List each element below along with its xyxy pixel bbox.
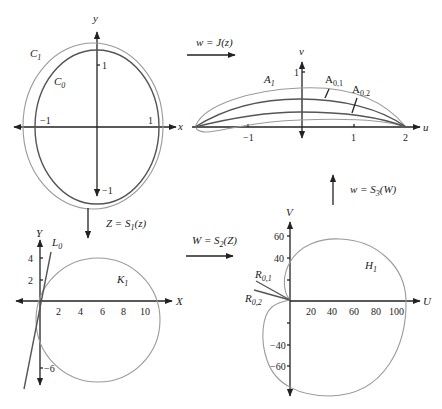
mapping-s1: Z = S1(z) [88,208,146,238]
tick-U-20: 20 [306,306,316,317]
label-a02: A0,2 [352,83,370,98]
label-a1: A1 [263,73,275,88]
tick-V-neg60: −60 [270,361,286,372]
panel-W-plane: 20 40 60 80 100 60 40 −40 −60 U V H1 R0,… [244,206,432,396]
tick-Y-4: 4 [28,253,33,264]
curve-a01 [195,99,406,127]
curve-h1 [263,239,406,396]
tick-U-40: 40 [327,306,337,317]
diagram-svg: −1 1 1 −1 x y C1 C0 w = J(z) −1 1 2 1 u … [0,0,442,409]
label-r02: R0,2 [244,292,262,307]
mapping-s3: w = S3(W) [333,175,397,205]
tick-V-40: 40 [274,253,284,264]
tick-y-neg1: −1 [102,185,113,196]
V-axis-label: V [286,206,294,218]
mapping-joukowski: w = J(z) [187,36,235,55]
label-c0: C0 [54,75,65,90]
tick-X-2: 2 [56,306,61,317]
label-k1: K1 [116,273,128,288]
Y-axis-label: Y [36,227,44,239]
tick-U-100: 100 [389,306,404,317]
tick-X-8: 8 [121,306,126,317]
mapping-label-right: w = S3(W) [350,183,397,198]
label-l0: L0 [51,236,62,251]
tick-V-60: 60 [274,231,284,242]
mapping-s2: W = S2(Z) [186,234,237,256]
tick-v-1: 1 [294,67,299,78]
tick-V-neg40: −40 [270,340,286,351]
tick-Y-neg6: −6 [44,363,55,374]
panel-w-plane: −1 1 2 1 u v A1 A0,1 A0,2 [192,45,429,143]
tick-u-2: 2 [403,132,408,143]
u-axis-label: u [423,121,429,133]
tick-X-4: 4 [78,306,83,317]
tick-x-1: 1 [148,115,153,126]
tick-u-1: 1 [351,132,356,143]
tick-Y-2: 2 [28,275,33,286]
v-axis-label: v [299,45,304,57]
mapping-label-left: Z = S1(z) [106,217,146,232]
curve-a1 [196,88,406,132]
U-axis-label: U [423,295,432,307]
panel-Z-plane: 2 4 6 8 10 4 2 −6 X Y L0 K1 [16,227,184,389]
X-axis-label: X [175,295,184,307]
tick-x-neg1: −1 [40,115,51,126]
mapping-label-top: w = J(z) [196,36,233,49]
label-a01: A0,1 [325,73,343,88]
mapping-label-middle: W = S2(Z) [192,234,237,249]
tick-U-60: 60 [349,306,359,317]
x-axis-label: x [177,120,183,132]
tick-y-1: 1 [102,60,107,71]
conformal-mapping-diagram: −1 1 1 −1 x y C1 C0 w = J(z) −1 1 2 1 u … [0,0,442,409]
panel-z-plane: −1 1 1 −1 x y C1 C0 [14,12,183,209]
label-c1: C1 [30,47,41,62]
tick-u-neg1: −1 [243,132,254,143]
label-h1: H1 [364,259,377,274]
y-axis-label: y [92,12,98,24]
tick-X-10: 10 [140,306,150,317]
tick-X-6: 6 [100,306,105,317]
tick-U-80: 80 [371,306,381,317]
curve-c1 [23,43,163,209]
